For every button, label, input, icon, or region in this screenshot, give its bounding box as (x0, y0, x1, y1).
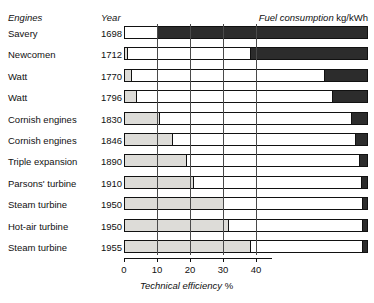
x-axis-title-unit: % (225, 280, 233, 291)
x-tick-20 (190, 258, 191, 262)
stacked-bar (124, 26, 368, 39)
row-year-label: 1846 (101, 135, 122, 146)
row-engine-label: Steam turbine (8, 242, 67, 253)
bar-segment-efficiency (125, 113, 160, 124)
fuel-consumption-unit: kg/kWh (336, 12, 368, 23)
chart-row: Triple expansion1890 (0, 152, 374, 172)
stacked-bar (124, 197, 368, 210)
stacked-bar (124, 240, 368, 253)
chart-row: Newcomen1712 (0, 45, 374, 65)
bar-segment-efficiency (125, 48, 128, 59)
row-year-label: 1770 (101, 71, 122, 82)
row-engine-label: Newcomen (8, 49, 56, 60)
chart-row: Cornish engines1830 (0, 110, 374, 130)
row-year-label: 1830 (101, 114, 122, 125)
stacked-bar (124, 112, 368, 125)
bar-segment-fuel-consumption (324, 70, 367, 81)
stacked-bar (124, 176, 368, 189)
x-axis-title: Technical efficiency % (140, 280, 233, 291)
bar-segment-fuel-consumption (332, 91, 367, 102)
x-axis-line (124, 258, 272, 259)
row-year-label: 1698 (101, 28, 122, 39)
bar-segment-fuel-consumption (351, 113, 367, 124)
row-year-label: 1950 (101, 221, 122, 232)
row-engine-label: Parsons' turbine (8, 178, 76, 189)
row-year-label: 1796 (101, 92, 122, 103)
chart-row: Watt1796 (0, 88, 374, 108)
chart-row: Parsons' turbine1910 (0, 174, 374, 194)
bar-segment-efficiency (125, 177, 194, 188)
x-tick-label: 0 (121, 264, 126, 275)
stacked-bar (124, 90, 368, 103)
row-year-label: 1950 (101, 199, 122, 210)
bar-segment-fuel-consumption (359, 155, 367, 166)
bar-segment-efficiency (125, 155, 187, 166)
row-year-label: 1955 (101, 242, 122, 253)
bar-segment-fuel-consumption (362, 241, 367, 252)
bar-segment-fuel-consumption (362, 220, 367, 231)
fuel-efficiency-chart: Engines Year Fuel consumption kg/kWh Sav… (0, 0, 374, 303)
row-engine-label: Triple expansion (8, 156, 77, 167)
stacked-bar (124, 133, 368, 146)
chart-row: Cornish engines1846 (0, 131, 374, 151)
stacked-bar (124, 47, 368, 60)
bar-segment-efficiency (125, 134, 173, 145)
row-engine-label: Savery (8, 28, 38, 39)
bar-segment-fuel-consumption (157, 27, 367, 38)
x-tick-label: 10 (152, 264, 163, 275)
bar-segment-fuel-consumption (355, 134, 367, 145)
fuel-consumption-text: Fuel consumption (259, 12, 334, 23)
x-axis-title-text: Technical efficiency (140, 280, 222, 291)
row-engine-label: Cornish engines (8, 114, 77, 125)
x-tick-label: 30 (218, 264, 229, 275)
chart-row: Hot-air turbine1950 (0, 217, 374, 237)
stacked-bar (124, 154, 368, 167)
row-year-label: 1712 (101, 49, 122, 60)
x-tick-10 (157, 258, 158, 262)
x-tick-label: 40 (251, 264, 262, 275)
bar-segment-fuel-consumption (250, 48, 367, 59)
x-tick-label: 20 (185, 264, 196, 275)
bar-segment-efficiency (125, 220, 229, 231)
chart-row: Savery1698 (0, 24, 374, 44)
row-engine-label: Watt (8, 92, 27, 103)
row-engine-label: Hot-air turbine (8, 221, 68, 232)
row-engine-label: Steam turbine (8, 199, 67, 210)
x-tick-0 (124, 258, 125, 262)
row-engine-label: Cornish engines (8, 135, 77, 146)
bar-segment-efficiency (125, 70, 132, 81)
bar-segment-efficiency (125, 241, 251, 252)
row-year-label: 1910 (101, 178, 122, 189)
x-tick-30 (223, 258, 224, 262)
column-header-fuel-consumption: Fuel consumption kg/kWh (259, 12, 368, 23)
chart-row: Steam turbine1955 (0, 238, 374, 258)
row-engine-label: Watt (8, 71, 27, 82)
stacked-bar (124, 69, 368, 82)
bar-segment-fuel-consumption (361, 177, 367, 188)
column-header-engines: Engines (8, 12, 42, 23)
x-tick-40 (256, 258, 257, 262)
bar-segment-efficiency (125, 91, 137, 102)
chart-row: Steam turbine1950 (0, 195, 374, 215)
row-year-label: 1890 (101, 156, 122, 167)
chart-row: Watt1770 (0, 67, 374, 87)
stacked-bar (124, 219, 368, 232)
column-header-year: Year (101, 12, 121, 23)
bar-segment-efficiency (125, 198, 224, 209)
bar-segment-fuel-consumption (362, 198, 367, 209)
